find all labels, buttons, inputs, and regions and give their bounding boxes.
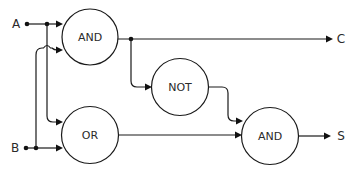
arrowhead-icon [56,119,63,126]
arrowhead-icon [56,21,63,28]
half-adder-diagram: A B AND OR C [0,0,349,174]
input-a: A [12,17,29,31]
arrowhead-icon [56,47,63,54]
gate-or1: OR [62,107,119,164]
wire-b-to-or1 [26,145,63,152]
arrowhead-icon [236,118,243,125]
gate-not1-label: NOT [168,81,192,94]
gate-and2-label: AND [258,130,282,143]
wire-and1-to-not1 [131,39,152,91]
gate-and1-label: AND [78,31,102,44]
gate-and2: AND [242,108,299,165]
wire-and1-to-c [118,36,333,43]
input-a-label: A [12,17,21,31]
input-b: B [11,141,28,155]
wire-or1-to-and2 [118,132,242,139]
gate-or1-label: OR [82,129,99,142]
gate-not1: NOT [152,59,209,116]
arrowhead-icon [326,36,333,43]
output-s-label: S [337,129,345,143]
wire-a-to-or1 [47,24,63,126]
wire-and2-to-s [298,133,331,140]
gate-and1: AND [62,9,118,65]
arrowhead-icon [56,145,63,152]
output-c-label: C [337,32,345,46]
wire-not1-to-and2 [208,87,243,125]
input-b-label: B [11,141,19,155]
arrowhead-icon [324,133,331,140]
wire-b-to-and1 [36,46,63,149]
